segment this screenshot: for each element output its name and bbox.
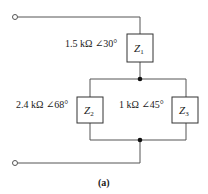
z3-value-label: 1 kΩ ∠45° (119, 99, 164, 110)
wire-top-lead (18, 17, 141, 34)
z1-value-label: 1.5 kΩ ∠30° (65, 38, 117, 49)
figure-caption: (a) (98, 177, 110, 189)
z2-value-label: 2.4 kΩ ∠68° (16, 99, 68, 110)
impedance-z3: Z3 1 kΩ ∠45° (119, 97, 198, 123)
impedance-z2: Z2 2.4 kΩ ∠68° (16, 97, 103, 123)
node-bottom (138, 138, 143, 143)
circuit-diagram: Z1 1.5 kΩ ∠30° Z2 2.4 kΩ ∠68° Z3 1 kΩ ∠4… (0, 0, 208, 194)
impedance-z1: Z1 1.5 kΩ ∠30° (65, 34, 153, 62)
wire-bottom-lead (18, 140, 141, 163)
node-top (138, 77, 143, 82)
terminal-top (13, 15, 18, 20)
terminal-bottom (13, 161, 18, 166)
